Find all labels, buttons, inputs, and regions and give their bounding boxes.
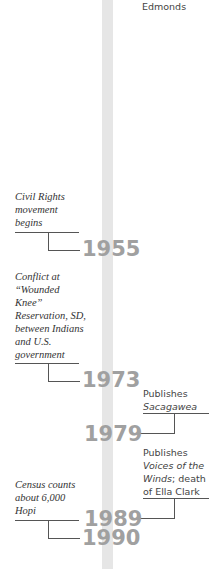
- event-line: Conflict at: [15, 270, 86, 283]
- rule-1955-top: [15, 232, 79, 233]
- year-1955: 1955: [82, 238, 140, 260]
- rule-1955-vertical: [48, 232, 49, 251]
- rule-1955-connector: [48, 250, 80, 251]
- year-1979: 1979: [84, 423, 142, 445]
- event-line: Publishes: [143, 446, 206, 459]
- event-civil-rights: Civil Rights movement begins: [15, 190, 65, 229]
- event-line: Hopi: [15, 504, 75, 517]
- event-line: begins: [15, 216, 65, 229]
- event-line: ; death: [172, 473, 206, 484]
- event-line: of Ella Clark: [143, 485, 206, 498]
- event-line: movement: [15, 203, 65, 216]
- year-1973: 1973: [82, 369, 140, 391]
- rule-1973-vertical: [48, 363, 49, 382]
- book-title: Sacagawea: [143, 401, 197, 412]
- rule-1990-top: [15, 520, 79, 521]
- timeline-bar: [102, 0, 113, 569]
- book-title: Winds: [143, 473, 172, 484]
- event-sacagawea: Publishes Sacagawea: [143, 387, 197, 413]
- rule-1990-connector: [48, 538, 80, 539]
- rule-1973-top: [15, 363, 79, 364]
- event-line: Reservation, SD,: [15, 309, 86, 322]
- rule-1979-vertical: [174, 413, 175, 434]
- year-1990: 1990: [82, 527, 140, 549]
- event-line: “Wounded: [15, 283, 86, 296]
- event-line: and U.S.: [15, 335, 86, 348]
- event-wounded-knee: Conflict at “Wounded Knee” Reservation, …: [15, 270, 86, 361]
- event-line: government: [15, 348, 86, 361]
- rule-1989-top: [143, 498, 209, 499]
- event-line: Census counts: [15, 478, 75, 491]
- event-voices-of-the-winds: Publishes Voices of the Winds; death of …: [143, 446, 206, 498]
- rule-1979-connector: [140, 433, 175, 434]
- rule-1989-vertical: [174, 498, 175, 519]
- event-line: between Indians: [15, 322, 86, 335]
- top-fragment-text: Edmonds: [142, 0, 186, 13]
- rule-1973-connector: [48, 381, 80, 382]
- event-line: about 6,000: [15, 491, 75, 504]
- rule-1989-connector: [140, 518, 175, 519]
- event-line: Knee”: [15, 296, 86, 309]
- book-title: Voices of the: [143, 460, 204, 471]
- event-line: Publishes: [143, 387, 197, 400]
- rule-1979-top: [143, 413, 209, 414]
- event-line: Civil Rights: [15, 190, 65, 203]
- rule-1990-vertical: [48, 520, 49, 539]
- event-census: Census counts about 6,000 Hopi: [15, 478, 75, 517]
